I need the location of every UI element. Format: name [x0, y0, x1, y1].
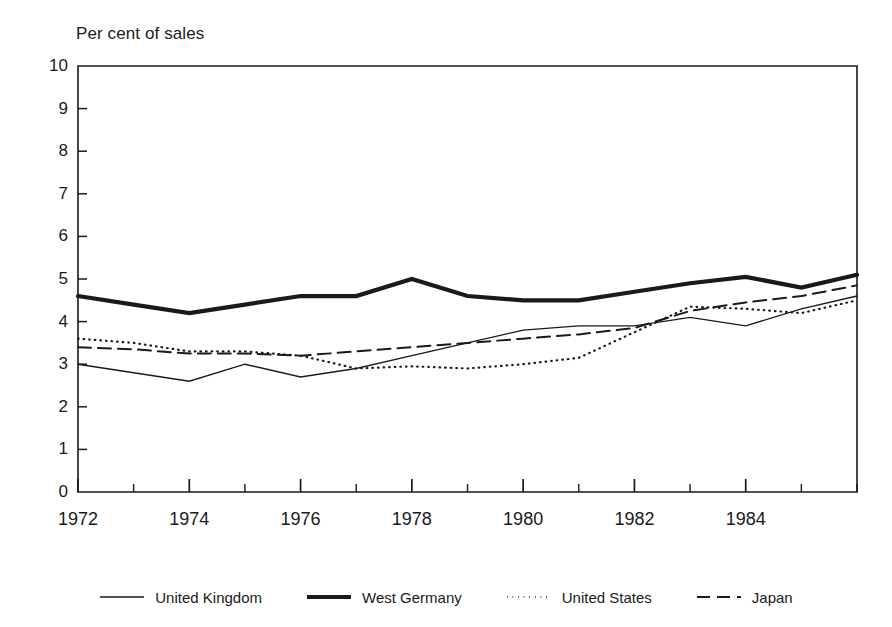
y-axis-tick-label: 1: [28, 440, 68, 457]
x-axis-tick-label: 1974: [149, 510, 229, 528]
data-series-layer: [78, 275, 857, 382]
x-axis-tick-label: 1984: [706, 510, 786, 528]
x-axis-tick-label: 1978: [372, 510, 452, 528]
legend-line-sample-dashed: [696, 590, 742, 604]
legend-item-west-germany[interactable]: West Germany: [306, 589, 462, 606]
legend-line-sample-solid-thin: [99, 590, 145, 604]
y-axis-tick-label: 7: [28, 185, 68, 202]
legend-item-label: United Kingdom: [155, 589, 262, 606]
x-axis-tick-label: 1976: [261, 510, 341, 528]
y-axis-tick-label: 8: [28, 142, 68, 159]
y-axis-tick-label: 2: [28, 398, 68, 415]
legend-item-label: United States: [562, 589, 652, 606]
legend-line-sample-solid-thick: [306, 590, 352, 604]
y-axis-tick-label: 6: [28, 227, 68, 244]
plot-area: [0, 0, 892, 627]
y-axis-tick-label: 9: [28, 100, 68, 117]
y-axis-tick-label: 0: [28, 483, 68, 500]
y-axis-tick-label: 10: [28, 57, 68, 74]
legend-line-sample-dotted: [506, 590, 552, 604]
chart-legend: United KingdomWest GermanyUnited StatesJ…: [0, 580, 892, 614]
x-axis-tick-label: 1972: [38, 510, 118, 528]
y-axis-tick-label: 5: [28, 270, 68, 287]
legend-item-label: West Germany: [362, 589, 462, 606]
chart-figure: Per cent of sales 109876543210 197219741…: [0, 0, 892, 627]
x-axis-tick-label: 1982: [594, 510, 674, 528]
chart-title: Per cent of sales: [76, 24, 204, 44]
legend-item-japan[interactable]: Japan: [696, 589, 793, 606]
legend-item-label: Japan: [752, 589, 793, 606]
y-axis-tick-label: 3: [28, 355, 68, 372]
legend-item-united-states[interactable]: United States: [506, 589, 652, 606]
y-axis-tick-label: 4: [28, 313, 68, 330]
x-axis-tick-label: 1980: [483, 510, 563, 528]
series-line-west-germany: [78, 275, 857, 313]
legend-item-united-kingdom[interactable]: United Kingdom: [99, 589, 262, 606]
